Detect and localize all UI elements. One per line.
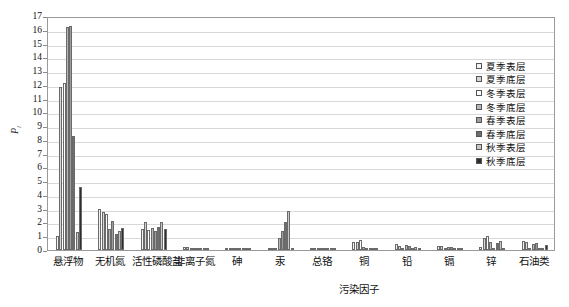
bar-group [268, 18, 294, 250]
x-axis-category-label: 汞 [259, 253, 301, 268]
bar [502, 248, 505, 250]
legend-item[interactable]: 夏季底层 [476, 73, 568, 87]
y-axis-tick-label: 15 [0, 40, 42, 49]
y-axis-tick-mark [43, 251, 47, 252]
legend-item[interactable]: 秋季底层 [476, 154, 568, 168]
x-axis-category-label: 铜 [343, 253, 385, 268]
bar-group [352, 18, 378, 250]
legend-item-label: 春季表层 [486, 113, 526, 127]
y-axis-tick-label: 16 [0, 26, 42, 35]
legend-item[interactable]: 春季底层 [476, 127, 568, 141]
y-axis-tick-label: 17 [0, 12, 42, 21]
bar-group [183, 18, 209, 250]
x-axis-category-label: 总铬 [301, 253, 343, 268]
bar [287, 211, 290, 250]
bar-group [98, 18, 124, 250]
x-axis-title-text: 污染因子 [339, 283, 379, 295]
legend-swatch-icon [476, 63, 482, 69]
chart-legend: 夏季表层夏季底层冬季表层冬季底层春季表层春季底层秋季表层秋季底层 [476, 59, 568, 168]
y-axis-tick-label: 8 [0, 136, 42, 145]
x-axis-category-label: 活性磷酸盐 [132, 253, 174, 268]
bar-group [395, 18, 421, 250]
plot-area: 夏季表层夏季底层冬季表层冬季底层春季表层春季底层秋季表层秋季底层 [47, 17, 555, 251]
y-axis-ticks: 01234567891011121314151617 [0, 0, 47, 307]
bar [291, 248, 294, 250]
y-axis-tick-label: 2 [0, 218, 42, 227]
y-axis-tick-label: 1 [0, 232, 42, 241]
legend-swatch-icon [476, 90, 482, 96]
bar-group [56, 18, 82, 250]
y-axis-tick-label: 11 [0, 95, 42, 104]
legend-item-label: 冬季底层 [486, 100, 526, 114]
x-axis-category-label: 石油类 [513, 253, 555, 268]
y-axis-tick-label: 9 [0, 122, 42, 131]
bar [206, 248, 209, 250]
y-axis-tick-label: 14 [0, 53, 42, 62]
legend-item-label: 秋季底层 [486, 154, 526, 168]
bar-group [310, 18, 336, 250]
bar [121, 228, 124, 250]
legend-swatch-icon [476, 131, 482, 137]
legend-item-label: 夏季表层 [486, 59, 526, 73]
y-axis-tick-label: 7 [0, 150, 42, 159]
bar [545, 245, 548, 251]
legend-swatch-icon [476, 117, 482, 123]
bar [375, 248, 378, 250]
bar-chart: Pi 01234567891011121314151617 夏季表层夏季底层冬季… [0, 0, 569, 307]
legend-swatch-icon [476, 144, 482, 150]
legend-swatch-icon [476, 104, 482, 110]
y-axis-tick-label: 0 [0, 246, 42, 255]
y-axis-tick-label: 3 [0, 205, 42, 214]
x-axis-category-label: 镉 [428, 253, 470, 268]
bar [164, 229, 167, 250]
legend-item[interactable]: 夏季表层 [476, 59, 568, 73]
legend-swatch-icon [476, 76, 482, 82]
bar [460, 248, 463, 250]
x-axis-category-label: 砷 [216, 253, 258, 268]
y-axis-tick-label: 13 [0, 67, 42, 76]
legend-item-label: 冬季表层 [486, 86, 526, 100]
legend-item-label: 秋季表层 [486, 140, 526, 154]
bar [248, 248, 251, 250]
y-axis-tick-label: 10 [0, 108, 42, 117]
bar [418, 248, 421, 250]
y-axis-tick-label: 6 [0, 163, 42, 172]
x-axis-category-label: 非离子氮 [174, 253, 216, 268]
legend-item-label: 夏季底层 [486, 72, 526, 86]
x-axis-category-label: 铅 [386, 253, 428, 268]
x-axis-category-label: 锌 [470, 253, 512, 268]
legend-item[interactable]: 冬季底层 [476, 100, 568, 114]
legend-item[interactable]: 秋季表层 [476, 141, 568, 155]
y-axis-tick-label: 5 [0, 177, 42, 186]
bar [79, 187, 82, 250]
bar-group [437, 18, 463, 250]
legend-item[interactable]: 春季表层 [476, 113, 568, 127]
y-axis-tick-label: 12 [0, 81, 42, 90]
bar [333, 248, 336, 250]
y-axis-tick-label: 4 [0, 191, 42, 200]
x-axis-title: 污染因子 [0, 281, 569, 296]
x-axis-category-label: 无机氮 [89, 253, 131, 268]
legend-item-label: 春季底层 [486, 127, 526, 141]
legend-swatch-icon [476, 158, 482, 164]
bar-group [141, 18, 167, 250]
legend-item[interactable]: 冬季表层 [476, 86, 568, 100]
bar-group [225, 18, 251, 250]
x-axis-category-label: 悬浮物 [47, 253, 89, 268]
